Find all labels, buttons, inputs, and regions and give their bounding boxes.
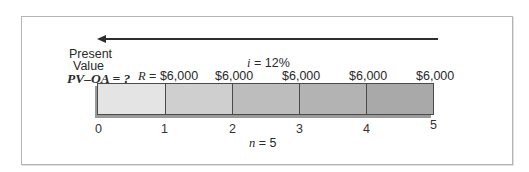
rate-value: = 12%: [250, 56, 289, 70]
bar-segments: [97, 83, 434, 115]
period-tick-0: 0: [95, 122, 102, 136]
period-segment-5: [367, 84, 433, 114]
period-segment-4: [300, 84, 367, 114]
discount-arrow: [102, 38, 438, 40]
payment-label-3: $6,000: [282, 69, 320, 83]
payment-label-2: $6,000: [215, 69, 253, 83]
payment-label-1: R = $6,000: [138, 69, 198, 84]
period-segment-3: [233, 84, 300, 114]
period-tick-5: 5: [430, 118, 437, 132]
period-segment-1: [98, 84, 166, 114]
payment-value-1: = $6,000: [146, 69, 198, 83]
payment-label-5: $6,000: [416, 69, 454, 83]
period-tick-1: 1: [161, 122, 168, 136]
period-tick-4: 4: [363, 122, 370, 136]
payment-variable: R: [138, 69, 146, 83]
n-value: = 5: [255, 136, 276, 150]
period-tick-2: 2: [229, 122, 236, 136]
periods-count-label: n = 5: [249, 136, 276, 151]
period-tick-3: 3: [296, 122, 303, 136]
period-segment-2: [166, 84, 233, 114]
payment-label-4: $6,000: [349, 69, 387, 83]
